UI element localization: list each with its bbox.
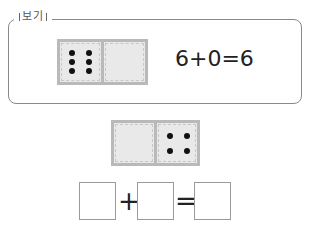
pip bbox=[86, 59, 92, 65]
domino-tile-six bbox=[60, 42, 101, 82]
pip bbox=[69, 59, 75, 65]
pip bbox=[86, 68, 92, 74]
example-label: 보기 bbox=[14, 10, 52, 24]
pip bbox=[86, 50, 92, 56]
example-domino bbox=[57, 39, 148, 85]
pip bbox=[69, 50, 75, 56]
example-equation: 6+0=6 bbox=[175, 46, 254, 71]
answer-box-sum[interactable] bbox=[194, 182, 231, 220]
pip bbox=[184, 133, 190, 139]
domino-tile-four bbox=[157, 123, 197, 163]
answer-box-first-addend[interactable] bbox=[79, 182, 116, 220]
example-label-text: 보기 bbox=[22, 10, 44, 23]
domino-tile-blank bbox=[114, 123, 154, 163]
example-box bbox=[8, 19, 302, 104]
problem-domino bbox=[111, 120, 200, 166]
pip bbox=[167, 133, 173, 139]
domino-tile-blank bbox=[104, 42, 145, 82]
pip bbox=[69, 68, 75, 74]
pip bbox=[167, 148, 173, 154]
pip bbox=[184, 148, 190, 154]
answer-box-second-addend[interactable] bbox=[137, 182, 174, 220]
